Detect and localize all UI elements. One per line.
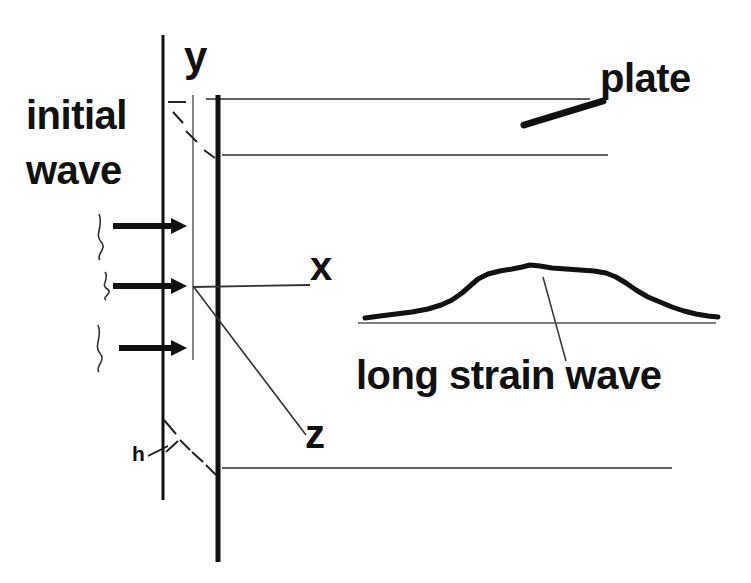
- z-axis-label: z: [305, 414, 325, 454]
- long-strain-wave-callout-leader: [543, 277, 566, 361]
- wavefront-squiggle: [97, 325, 102, 372]
- initial-wave-arrow-group: [113, 218, 187, 356]
- initial-wave-arrow-head: [171, 340, 187, 356]
- z-axis-line: [193, 286, 306, 435]
- initial-wave-label-line1: initial: [26, 95, 127, 135]
- initial-wave-arrow-head: [171, 218, 187, 234]
- plate-callout-leader: [524, 101, 603, 125]
- plate-label: plate: [600, 58, 691, 98]
- dashed-construction-segment: [204, 150, 215, 158]
- wavefront-squiggle: [98, 214, 103, 260]
- x-axis-label: x: [310, 246, 332, 286]
- diagram-canvas: initial wave y x z h plate long strain w…: [0, 0, 751, 583]
- initial-wave-label-line2: wave: [26, 150, 122, 190]
- wavefront-squiggle: [104, 272, 109, 300]
- long-strain-wave-curve: [365, 265, 718, 318]
- thickness-h-label: h: [132, 443, 145, 464]
- initial-wave-arrow-head: [171, 278, 187, 294]
- dashed-construction-segment: [206, 465, 216, 475]
- dashed-construction-segment: [192, 452, 203, 462]
- dashed-construction-segment: [173, 112, 183, 123]
- upper-dashed-construction-group: [168, 102, 215, 158]
- wavefront-squiggle-group: [97, 214, 109, 372]
- lower-dashed-construction-group: [164, 420, 216, 475]
- dashed-construction-segment: [180, 440, 190, 450]
- dashed-construction-segment: [164, 420, 176, 434]
- dashed-construction-segment: [186, 131, 197, 142]
- y-axis-label: y: [184, 36, 207, 78]
- long-strain-wave-label: long strain wave: [356, 355, 661, 395]
- thickness-leader-line: [148, 446, 168, 456]
- x-axis-line: [193, 285, 310, 287]
